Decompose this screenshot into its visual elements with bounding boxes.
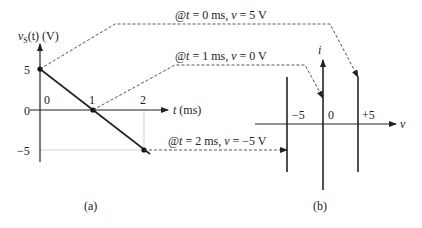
i-axis-label: i	[318, 43, 321, 57]
annotation-t0: @t = 0 ms, v = 5 V	[175, 8, 267, 22]
panel-b: i v −5 0 +5 (b)	[255, 43, 406, 213]
v-tick-0: 0	[328, 108, 334, 122]
annotation-t1: @t = 1 ms, v = 0 V	[175, 49, 267, 63]
x-tick-0: 0	[44, 93, 50, 107]
panel-a: vS(t) (V) 5 0 −5 0 1 2 t (ms) (a)	[17, 29, 201, 213]
y-tick-5: 5	[24, 63, 30, 77]
x-tick-2: 2	[140, 93, 146, 107]
x-tick-1: 1	[89, 93, 95, 107]
annotation-t2: @t = 2 ms, v = −5 V	[168, 134, 267, 148]
mapping-arrows	[40, 24, 358, 150]
t-axis-label: t (ms)	[173, 103, 201, 117]
mapping-arrow-t1	[93, 65, 323, 110]
diagram-canvas: vS(t) (V) 5 0 −5 0 1 2 t (ms) (a) i v −5…	[0, 0, 422, 228]
caption-a: (a)	[84, 199, 97, 213]
y-tick-minus5: −5	[17, 144, 30, 158]
y-tick-0: 0	[24, 104, 30, 118]
v-tick-minus5: −5	[292, 108, 305, 122]
v-axis-label: v	[400, 117, 406, 131]
v-tick-plus5: +5	[362, 108, 375, 122]
y-axis-label: vS(t) (V)	[18, 29, 59, 45]
caption-b: (b)	[313, 199, 327, 213]
